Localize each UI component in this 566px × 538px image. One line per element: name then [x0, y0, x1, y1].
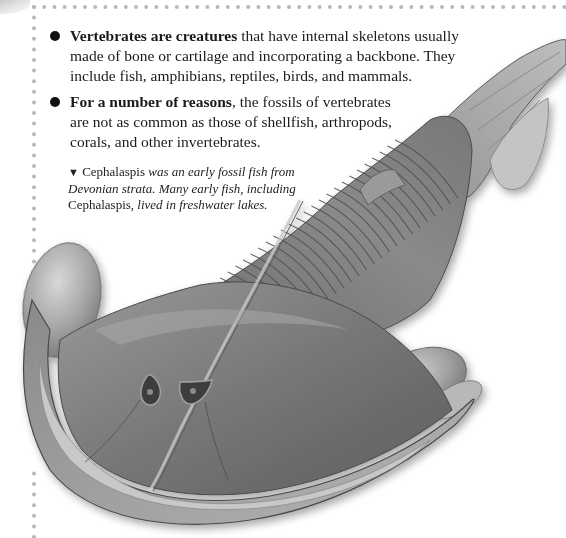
- bullet-item-vertebrates: Vertebrates are creatures that have inte…: [48, 26, 488, 86]
- bullet-lead: For a number of reasons: [70, 93, 232, 110]
- caption-part: Cephalaspis: [79, 164, 145, 179]
- bullet-dot-icon: [50, 31, 60, 41]
- bullet-dot-icon: [50, 97, 60, 107]
- figure-caption: ▼ Cephalaspis was an early fossil fish f…: [68, 164, 298, 214]
- bullet-list: Vertebrates are creatures that have inte…: [48, 26, 488, 158]
- bullet-lead: Vertebrates are creatures: [70, 27, 237, 44]
- caption-part: lived in freshwater lakes.: [134, 197, 267, 212]
- triangle-down-icon: ▼: [68, 166, 79, 178]
- bullet-item-reasons: For a number of reasons, the fossils of …: [48, 92, 413, 152]
- caption-part: Cephalaspis,: [68, 197, 134, 212]
